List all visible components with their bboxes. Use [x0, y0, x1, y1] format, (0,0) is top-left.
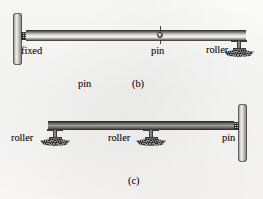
pin-joint-tick-bottom	[160, 40, 161, 44]
ground-hatch-icon	[136, 139, 166, 147]
pin-wall-plate	[238, 104, 247, 162]
ground-hatch-icon	[224, 50, 254, 58]
beam-b	[26, 30, 246, 41]
roller-left-label: roller	[11, 132, 33, 143]
pin-joint-tick-top	[160, 26, 161, 31]
caption-c: (c)	[128, 175, 139, 186]
roller-support-b	[224, 40, 254, 57]
roller-support-c-middle	[136, 129, 166, 146]
roller-middle-label: roller	[108, 132, 130, 143]
fixed-label: fixed	[21, 45, 42, 56]
pin-right-label: pin	[222, 132, 235, 143]
ground-hatch-icon	[40, 139, 70, 147]
roller-label: roller	[206, 44, 228, 55]
caption-b: (b)	[132, 78, 144, 89]
roller-support-c-left	[40, 129, 70, 146]
pin-label: pin	[151, 45, 164, 56]
pin-joint-b	[157, 32, 163, 38]
beam-support-figure: fixed pin roller pin (b) rol	[0, 0, 263, 199]
stray-pin-label: pin	[78, 78, 91, 89]
